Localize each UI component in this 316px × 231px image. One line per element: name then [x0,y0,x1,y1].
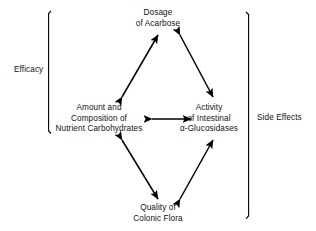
node-intestinal-glucosidases-line-3: α-Glucosidases [166,124,252,135]
node-nutrient-carbohydrates-line-2: Composition of [34,114,164,125]
node-nutrient-carbohydrates-line-3: Nutrient Carbohydrates [34,124,164,135]
bracket-label-efficacy: Efficacy [14,65,43,76]
bracket-label-side-effects: Side Effects [257,113,302,124]
node-nutrient-carbohydrates-line-1: Amount and [34,103,164,114]
connector-glucosidases-flora [180,140,213,199]
node-intestinal-glucosidases: Activity of Intestinal α-Glucosidases [166,103,252,135]
connector-dosage-carbohydrates [122,35,158,97]
node-intestinal-glucosidases-line-2: of Intestinal [166,114,252,125]
connector-carbohydrates-flora [122,140,158,199]
node-dosage-line-1: Dosage [0,8,316,19]
node-colonic-flora-line-2: Colonic Flora [0,214,316,225]
node-dosage: Dosage of Acarbose [0,8,316,29]
connector-dosage-glucosidases [180,35,213,97]
node-intestinal-glucosidases-line-1: Activity [166,103,252,114]
node-colonic-flora: Quality of Colonic Flora [0,203,316,224]
node-dosage-line-2: of Acarbose [0,19,316,30]
node-colonic-flora-line-1: Quality of [0,203,316,214]
node-nutrient-carbohydrates: Amount and Composition of Nutrient Carbo… [34,103,164,135]
